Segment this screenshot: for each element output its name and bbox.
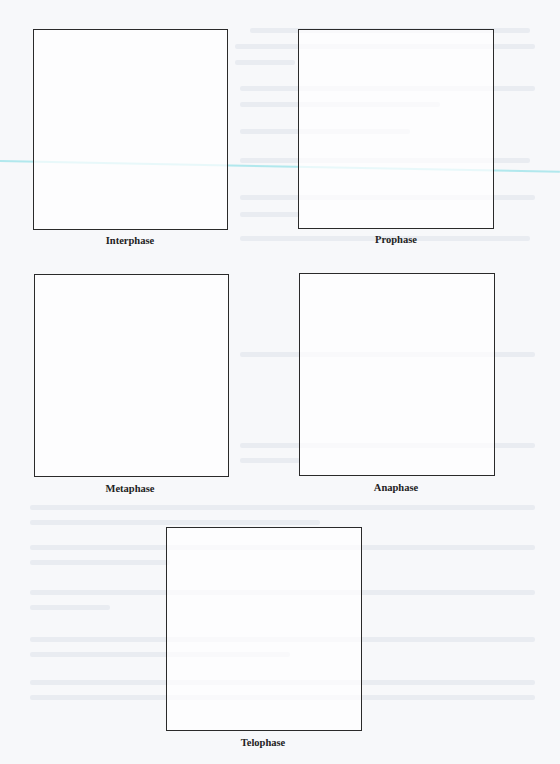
drawing-box-anaphase[interactable] [299,273,495,476]
drawing-box-metaphase[interactable] [34,274,229,477]
label-anaphase: Anaphase [296,482,496,493]
drawing-box-prophase[interactable] [298,29,494,229]
drawing-box-interphase[interactable] [33,29,228,230]
label-telophase: Telophase [163,737,363,748]
drawing-box-telophase[interactable] [166,527,362,731]
label-interphase: Interphase [30,235,230,246]
label-metaphase: Metaphase [30,483,230,494]
label-prophase: Prophase [296,234,496,245]
